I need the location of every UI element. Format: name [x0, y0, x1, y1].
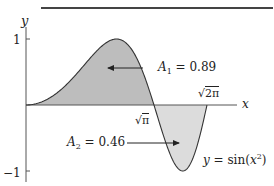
- y-tick-label-1: 1: [13, 34, 21, 46]
- a2-symbol: A: [67, 135, 76, 149]
- a1-annotation: A1 = 0.89: [158, 61, 216, 76]
- a1-symbol: A: [158, 60, 167, 74]
- y-axis-label: y: [21, 14, 28, 27]
- sqrt-pi-radicand: π: [142, 113, 149, 127]
- sqrt-symbol: √: [198, 87, 205, 100]
- sqrt-symbol: √: [135, 114, 142, 127]
- curve-equation-label: y = sin(x2): [203, 153, 266, 166]
- a1-value: = 0.89: [172, 60, 216, 74]
- sqrt-2pi-label: √2π: [198, 88, 219, 99]
- a2-annotation: A2 = 0.46: [67, 136, 125, 151]
- eq-close: ): [262, 153, 267, 167]
- area-a1-region: [26, 39, 154, 105]
- eq-y: y: [203, 153, 210, 167]
- sqrt-2pi-radicand: 2π: [205, 86, 219, 100]
- a2-value: = 0.46: [81, 135, 125, 149]
- eq-sin: = sin(: [210, 153, 250, 167]
- eq-x: x: [250, 153, 257, 167]
- sqrt-pi-label: √π: [135, 115, 149, 126]
- x-axis-label: x: [242, 98, 249, 110]
- y-tick-label-neg1: −1: [3, 167, 21, 179]
